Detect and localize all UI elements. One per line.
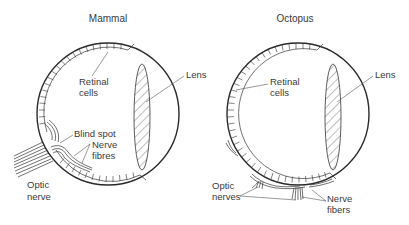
octopus-nerve-label-2: fibers: [327, 204, 350, 215]
octopus-lens-label: Lens: [375, 69, 396, 80]
mammal-title: Mammal: [89, 13, 127, 24]
mammal-eye-panel: Mammal: [14, 13, 207, 202]
octopus-nerve-leader: [302, 190, 326, 201]
mammal-retinal-label: Retinal: [79, 76, 109, 87]
octopus-eye-panel: Octopus: [212, 13, 396, 215]
mammal-blind-spot-label: Blind spot: [74, 128, 116, 139]
mammal-optic-label: Optic: [27, 179, 49, 190]
octopus-lens: [325, 64, 341, 170]
mammal-eyeball: [37, 43, 179, 185]
octopus-nerve-label: Nerve: [327, 193, 352, 204]
octopus-title: Octopus: [276, 13, 313, 24]
mammal-lens: [134, 64, 150, 170]
mammal-lens-label: Lens: [186, 69, 207, 80]
mammal-retinal-label-2: cells: [79, 87, 98, 98]
octopus-optic-label-2: nerves: [212, 191, 241, 202]
octopus-retinal-label-2: cells: [270, 87, 289, 98]
octopus-retinal-label: Retinal: [270, 76, 300, 87]
octopus-eyeball: [227, 43, 369, 185]
mammal-nerve-label-2: fibres: [92, 150, 115, 161]
mammal-nerve-label: Nerve: [92, 139, 117, 150]
octopus-optic-label: Optic: [212, 180, 234, 191]
eye-comparison-diagram: Mammal: [0, 0, 409, 225]
mammal-optic-label-2: nerve: [27, 191, 51, 202]
